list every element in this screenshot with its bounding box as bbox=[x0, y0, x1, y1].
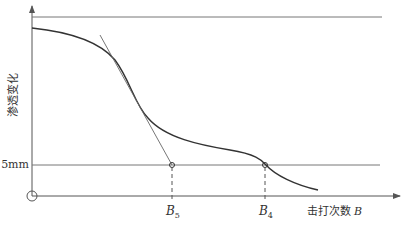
tangent-line bbox=[100, 35, 172, 165]
y-axis-label: 渗透变化 bbox=[6, 73, 20, 117]
penetration-diagram: 5mm B5 B4 击打次数B 渗透变化 bbox=[0, 0, 406, 229]
penetration-curve bbox=[32, 28, 318, 190]
5mm-label: 5mm bbox=[1, 158, 29, 171]
b5-label: B5 bbox=[165, 204, 180, 220]
x-axis-label: 击打次数B bbox=[307, 204, 362, 218]
b4-label: B4 bbox=[258, 204, 273, 220]
